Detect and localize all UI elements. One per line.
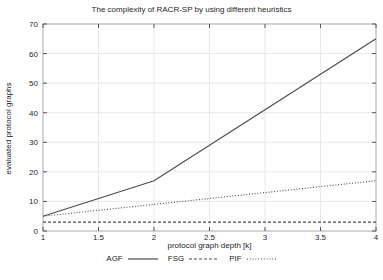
- legend-line-sample-solid: [128, 255, 158, 263]
- y-axis-label: evaluated protocol graphs: [4, 59, 13, 199]
- legend-item-agf: AGF: [106, 254, 157, 263]
- legend-item-fsg: FSG: [168, 254, 219, 263]
- legend: AGFFSGPIF: [0, 254, 383, 263]
- y-tick-label: 40: [29, 109, 38, 118]
- y-tick-label: 10: [29, 197, 38, 206]
- legend-line-sample-dashed: [189, 255, 219, 263]
- legend-label: PIF: [229, 254, 241, 263]
- x-axis-label: protocol graph depth [k]: [43, 241, 376, 250]
- chart-figure: The complexity of RACR-SP by using diffe…: [0, 0, 383, 280]
- y-tick-label: 50: [29, 79, 38, 88]
- legend-label: AGF: [106, 254, 122, 263]
- y-tick-label: 70: [29, 20, 38, 29]
- legend-item-pif: PIF: [229, 254, 276, 263]
- y-tick-label: 60: [29, 50, 38, 59]
- plot-area: 11.522.533.54010203040506070: [0, 0, 383, 280]
- legend-line-sample-dotted: [247, 255, 277, 263]
- legend-label: FSG: [168, 254, 184, 263]
- y-tick-label: 20: [29, 168, 38, 177]
- y-tick-label: 30: [29, 138, 38, 147]
- y-tick-label: 0: [34, 227, 39, 236]
